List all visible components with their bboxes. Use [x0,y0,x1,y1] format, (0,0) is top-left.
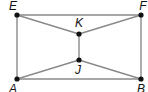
labels: E F A B K J [8,0,147,92]
geometry-diagram: E F A B K J [0,0,148,92]
segment-EK [17,15,79,34]
label-F: F [139,0,147,13]
point-F [138,12,143,17]
label-B: B [137,82,145,92]
label-K: K [75,16,84,30]
label-E: E [9,0,18,13]
point-E [14,12,19,17]
point-J [76,57,81,62]
label-A: A [8,82,17,92]
point-B [138,76,143,81]
label-J: J [74,63,82,77]
segment-BJ [79,60,141,79]
segment-FK [79,15,141,34]
point-K [76,31,81,36]
point-A [14,76,19,81]
segment-AJ [17,60,79,79]
